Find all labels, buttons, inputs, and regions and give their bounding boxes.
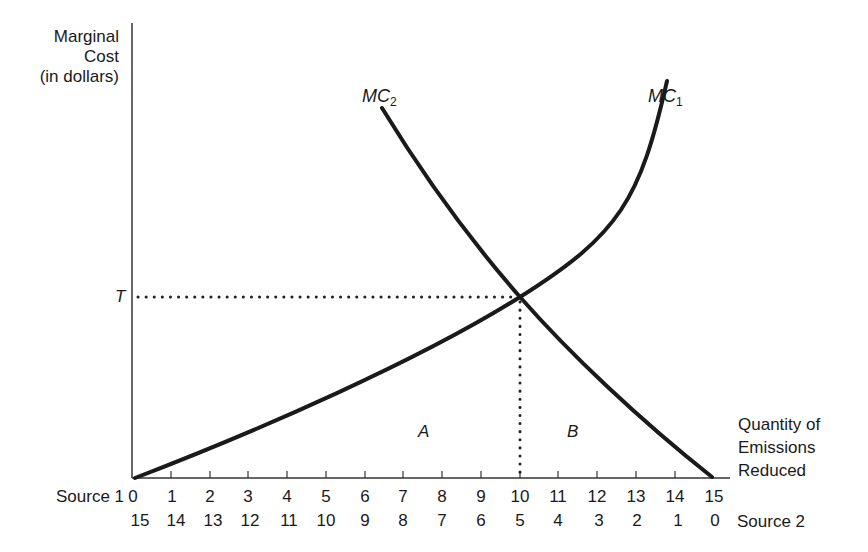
x-axis-label-line-1: Quantity of [738, 413, 820, 436]
tick-label: 12 [241, 511, 260, 531]
equilibrium-price-label: T [115, 287, 125, 307]
tick-label: 14 [167, 511, 186, 531]
mc2-label: MC2 [362, 86, 397, 109]
tick-label: 13 [627, 487, 646, 507]
mc2-curve [382, 108, 712, 477]
tick-label: 8 [398, 511, 407, 531]
tick-label: 7 [398, 487, 407, 507]
x-axis-label-line-2: Emissions [738, 436, 820, 459]
tick-label: 11 [549, 487, 567, 507]
mc1-label: MC1 [648, 86, 683, 109]
tick-label: 1 [673, 511, 682, 531]
tick-label: 12 [588, 487, 607, 507]
y-axis-label: Marginal Cost (in dollars) [0, 27, 119, 87]
tick-label: 4 [553, 511, 562, 531]
area-b-label: B [567, 422, 578, 442]
area-a-label: A [418, 422, 429, 442]
tick-label: 6 [476, 511, 485, 531]
tick-label: 2 [632, 511, 641, 531]
tick-label: 4 [282, 487, 291, 507]
y-axis-label-line-3: (in dollars) [0, 67, 119, 87]
tick-label: 15 [705, 487, 724, 507]
x-axis-label-line-3: Reduced [738, 459, 820, 482]
y-axis-label-line-2: Cost [0, 47, 119, 67]
tick-label: 2 [205, 487, 214, 507]
tick-label: 3 [243, 487, 252, 507]
tick-label: 7 [437, 511, 446, 531]
tick-label: 14 [666, 487, 685, 507]
tick-label: 9 [360, 511, 369, 531]
tick-label: 13 [204, 511, 223, 531]
x-axis-label: Quantity of Emissions Reduced [738, 413, 820, 482]
tick-label: 10 [511, 487, 530, 507]
source-2-label: Source 2 [737, 512, 805, 532]
tick-label: 6 [360, 487, 369, 507]
tick-label: 15 [131, 511, 150, 531]
tick-label: 9 [476, 487, 485, 507]
tick-label: 5 [515, 511, 524, 531]
tick-label: 5 [321, 487, 330, 507]
tick-label: 1 [167, 487, 176, 507]
tick-label: 8 [437, 487, 446, 507]
tick-label: 11 [280, 511, 298, 531]
y-axis-label-line-1: Marginal [0, 27, 119, 47]
tick-label: 0 [710, 511, 719, 531]
tick-label: 0 [128, 487, 137, 507]
source-1-label: Source 1 [56, 487, 124, 507]
tick-label: 3 [594, 511, 603, 531]
tick-label: 10 [317, 511, 336, 531]
x-axis-ticks [171, 471, 675, 478]
